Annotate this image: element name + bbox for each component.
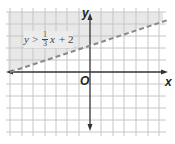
- inequality-label: y > 1 3 x + 2: [24, 31, 73, 48]
- coordinate-plane: [0, 0, 175, 144]
- x-axis-label: x: [165, 76, 172, 88]
- inequality-lhs: y: [24, 34, 29, 45]
- slope-fraction: 1 3: [42, 31, 48, 48]
- y-axis-label: y: [82, 7, 89, 19]
- inequality-var: x: [50, 34, 55, 45]
- origin-label: O: [80, 75, 89, 87]
- slope-denominator: 3: [43, 40, 47, 48]
- y-axis-arrow-down-icon: [88, 124, 93, 131]
- x-axis-arrow-right-icon: [161, 70, 168, 75]
- inequality-operator: >: [32, 34, 38, 45]
- inequality-rest: + 2: [59, 34, 73, 45]
